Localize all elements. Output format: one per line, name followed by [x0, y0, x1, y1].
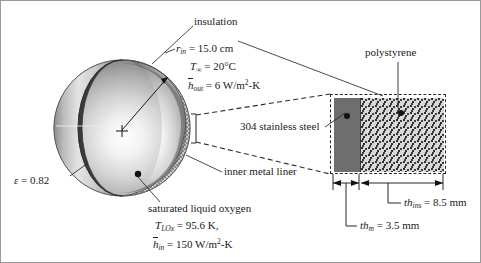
th-ins-symbol: th	[404, 196, 413, 208]
label-ambient-temp: T∞ = 20°C	[190, 60, 236, 76]
label-emissivity: ε = 0.82	[14, 174, 49, 187]
lox-marker-dot	[135, 171, 141, 177]
ambient-temp-value: 20°C	[213, 60, 236, 72]
th-m-subscript: m	[369, 224, 374, 233]
th-ins-eq: =	[424, 196, 430, 208]
radius-arrow	[122, 77, 168, 130]
emissivity-value: 0.82	[30, 174, 49, 186]
stainless-steel-text: 304 stainless steel	[240, 120, 319, 132]
h-inner-eq: =	[167, 238, 173, 250]
h-outer-eq: =	[206, 79, 212, 91]
polystyrene-marker-dot	[398, 110, 404, 116]
h-inner-subscript: in	[159, 243, 165, 252]
radius-subscript: in	[180, 47, 186, 56]
metal-layer-marker-dot	[344, 113, 350, 119]
label-saturated-lox: saturated liquid oxygen	[148, 202, 251, 215]
sphere-inner-cavity	[122, 60, 186, 196]
metal-layer	[334, 98, 361, 172]
insulation-text: insulation	[194, 15, 237, 27]
label-polystyrene: polystyrene	[365, 46, 416, 59]
frame-top	[0, 0, 481, 1]
ambient-temp-eq: =	[204, 60, 210, 72]
label-lox-temp: TLOx = 95.6 K,	[155, 219, 218, 235]
th-m-symbol: th	[360, 219, 369, 231]
dim-insulation-thickness	[361, 180, 443, 186]
label-h-outer: hout = 6 W/m2-K	[188, 76, 260, 95]
ambient-temp-subscript: ∞	[196, 65, 201, 74]
label-inner-metal-liner: inner metal liner	[224, 165, 297, 178]
h-inner-symbol: h	[153, 238, 159, 251]
label-h-inner: hin = 150 W/m2-K	[153, 235, 232, 254]
th-m-leader	[346, 183, 357, 226]
th-ins-value: 8.5 mm	[433, 196, 467, 208]
detail-box	[330, 94, 446, 174]
figure-canvas: insulation rin = 15.0 cm T∞ = 20°C hout …	[0, 0, 481, 263]
callout-expansion-lines	[196, 94, 330, 174]
lox-temp-eq: =	[177, 219, 183, 231]
sphere-cut-meridian	[78, 60, 122, 196]
radius-eq: =	[189, 42, 195, 54]
h-outer-symbol: h	[188, 79, 194, 92]
callout-origin-bracket	[191, 114, 196, 143]
sphere-center-mark	[116, 125, 128, 137]
h-inner-tail: -K	[221, 238, 233, 250]
th-ins-subscript: ins	[413, 201, 422, 210]
emissivity-eq: =	[21, 174, 27, 186]
h-inner-value: 150 W/m	[176, 238, 217, 250]
h-outer-value: 6 W/m	[215, 79, 245, 91]
emissivity-symbol: ε	[14, 174, 18, 186]
label-th-ins: thins = 8.5 mm	[404, 196, 467, 212]
saturated-lox-text: saturated liquid oxygen	[148, 202, 251, 214]
label-stainless-steel: 304 stainless steel	[240, 120, 319, 133]
dim-metal-thickness	[333, 180, 359, 186]
frame-left	[0, 0, 1, 263]
th-ins-leader	[388, 183, 401, 203]
lox-temp-value: 95.6 K,	[186, 219, 219, 231]
inner-metal-liner-text: inner metal liner	[224, 165, 297, 177]
sphere-metal-liner-band	[122, 63, 187, 193]
lox-temp-subscript: LOx	[161, 224, 174, 233]
th-m-eq: =	[377, 219, 383, 231]
th-m-value: 3.5 mm	[386, 219, 420, 231]
radius-value: 15.0 cm	[198, 42, 233, 54]
sphere-insulation-band	[122, 60, 190, 196]
label-th-m: thm = 3.5 mm	[360, 219, 419, 235]
label-radius: rin = 15.0 cm	[176, 42, 233, 58]
polystyrene-layer	[361, 98, 444, 172]
sphere-body	[54, 60, 190, 196]
sphere-left-lobe	[54, 60, 122, 196]
h-outer-tail: -K	[249, 79, 261, 91]
label-insulation: insulation	[194, 15, 237, 28]
h-outer-subscript: out	[194, 84, 204, 93]
polystyrene-text: polystyrene	[365, 46, 416, 58]
